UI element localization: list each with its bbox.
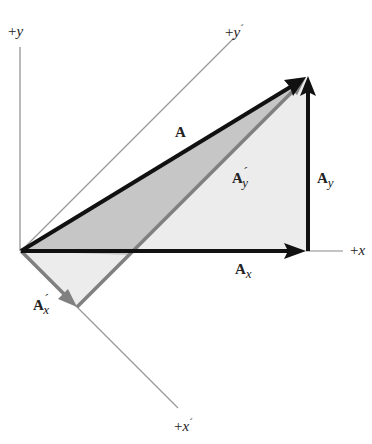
vector-Ay-label: Ay	[317, 170, 334, 190]
y-prime-axis-label: +y´	[225, 22, 244, 40]
y-axis-label: +y	[8, 23, 23, 39]
vector-A-label: A	[175, 124, 186, 140]
x-prime-axis-label: +x´	[174, 416, 193, 434]
vector-Ax-label: Ax	[235, 261, 252, 281]
vector-diagram: +y +x +y´ +x´ A Ax Ay A´y A´x	[0, 0, 372, 444]
vector-A-prime-x-label: A´x	[33, 291, 49, 317]
x-axis-label: +x	[350, 242, 365, 258]
